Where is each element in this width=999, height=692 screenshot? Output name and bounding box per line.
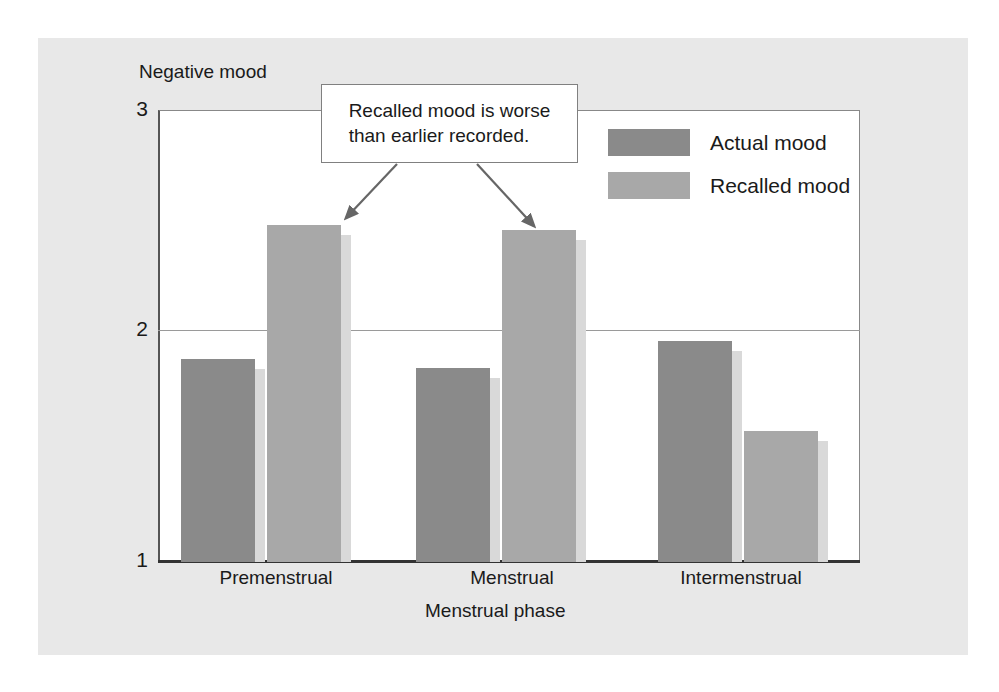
bar-premenstrual-actual-mood [181, 359, 255, 562]
bar-intermenstrual-actual-mood [658, 341, 732, 562]
x-axis-title: Menstrual phase [425, 600, 565, 622]
callout-text: Recalled mood is worsethan earlier recor… [339, 99, 561, 148]
bar-shadow [732, 351, 742, 562]
y-axis-title: Negative mood [139, 61, 267, 83]
x-category-label-premenstrual: Premenstrual [186, 567, 366, 589]
bar-shadow [818, 441, 828, 562]
y-tick-label-1: 1 [118, 548, 148, 572]
y-tick-label-2: 2 [118, 317, 148, 341]
legend-swatch-recalled-mood [608, 172, 690, 199]
legend: Actual mood Recalled mood [608, 129, 850, 215]
bar-menstrual-actual-mood [416, 368, 490, 562]
legend-label-recalled-mood: Recalled mood [710, 174, 850, 198]
bar-shadow [341, 235, 351, 562]
bar-shadow [490, 378, 500, 562]
legend-entry-actual-mood: Actual mood [608, 129, 850, 156]
legend-entry-recalled-mood: Recalled mood [608, 172, 850, 199]
bar-menstrual-recalled-mood [502, 230, 576, 562]
legend-label-actual-mood: Actual mood [710, 131, 827, 155]
legend-swatch-actual-mood [608, 129, 690, 156]
y-tick-label-3: 3 [118, 97, 148, 121]
bar-shadow [576, 240, 586, 562]
bar-intermenstrual-recalled-mood [744, 431, 818, 562]
x-category-label-intermenstrual: Intermenstrual [636, 567, 846, 589]
x-category-label-menstrual: Menstrual [432, 567, 592, 589]
bar-shadow [255, 369, 265, 562]
callout-box: Recalled mood is worsethan earlier recor… [321, 84, 578, 163]
bar-premenstrual-recalled-mood [267, 225, 341, 562]
